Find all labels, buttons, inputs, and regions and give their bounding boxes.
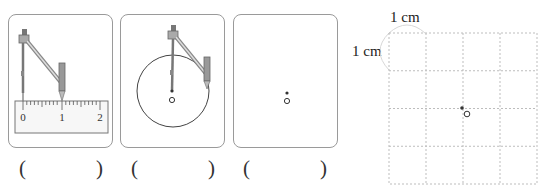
answer-1-close-paren: ): [96, 156, 103, 181]
cell-height-label: 1 cm: [352, 43, 382, 60]
answer-3-close-paren: ): [320, 156, 327, 181]
panel-draw-circle-step: [120, 14, 225, 148]
compass-on-ruler-illustration: 0 1 2: [9, 15, 114, 149]
grid-center-o-marker: [464, 111, 470, 117]
center-o-marker: [169, 97, 174, 102]
answer-3-open-paren: (: [243, 156, 250, 181]
answer-3-input[interactable]: [256, 156, 316, 180]
grid-canvas[interactable]: [380, 20, 544, 190]
ruler-label-2: 2: [97, 111, 103, 123]
panel-ruler-step: 0 1 2: [8, 14, 113, 148]
center-point: [285, 91, 288, 94]
pencil-icon: [204, 57, 210, 81]
answer-2-close-paren: ): [208, 156, 215, 181]
center-point: [170, 89, 173, 92]
center-point-illustration: [234, 15, 339, 149]
answer-2-input[interactable]: [144, 156, 204, 180]
pencil-icon: [59, 63, 65, 91]
ruler-label-1: 1: [59, 111, 65, 123]
answer-2-open-paren: (: [131, 156, 138, 181]
panel-center-point-step: [233, 14, 338, 148]
compass-circle-illustration: [121, 15, 226, 149]
grid-center-point: [460, 106, 464, 110]
center-o-marker: [284, 98, 289, 103]
answer-1-input[interactable]: [32, 156, 92, 180]
answer-1-open-paren: (: [19, 156, 26, 181]
ruler-label-0: 0: [20, 111, 26, 123]
